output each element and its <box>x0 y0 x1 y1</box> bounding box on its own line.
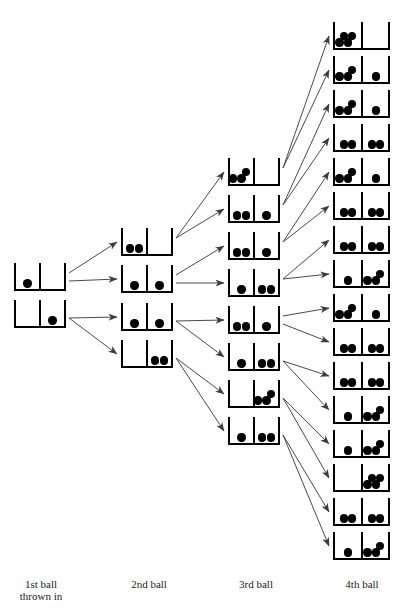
box-floor <box>228 369 280 371</box>
box-wall-left <box>121 265 123 293</box>
box-divider <box>361 90 363 116</box>
ball <box>363 446 371 454</box>
ball <box>363 412 371 420</box>
box-wall-left <box>333 328 335 356</box>
box-divider <box>361 226 363 252</box>
label-2nd: 2nd ball <box>99 578 199 590</box>
box-floor <box>333 252 390 254</box>
box-wall-left <box>228 343 230 371</box>
ball <box>254 396 262 404</box>
box-floor <box>333 150 390 152</box>
ball <box>368 242 376 250</box>
box-wall-right <box>64 263 66 291</box>
box-wall-right <box>388 464 390 492</box>
box-wall-right <box>388 362 390 390</box>
ball <box>348 242 356 250</box>
branch-arrow <box>283 435 329 512</box>
branch-arrow <box>69 318 117 354</box>
box-divider <box>253 195 255 221</box>
ball <box>126 244 134 252</box>
ball <box>258 359 266 367</box>
box-floor <box>228 221 280 223</box>
ball <box>376 406 384 414</box>
branch-arrow <box>176 358 224 394</box>
ball <box>368 140 376 148</box>
box-wall-right <box>278 417 280 445</box>
box-wall-right <box>388 226 390 254</box>
box-floor <box>121 254 173 256</box>
ball-box <box>121 303 173 331</box>
box-floor <box>121 329 173 331</box>
ball <box>368 474 376 482</box>
tree-diagram: 1st ball thrown in2nd ball3rd ball4th ba… <box>0 0 398 612</box>
box-divider <box>146 265 148 291</box>
branch-arrow <box>283 308 329 316</box>
box-wall-right <box>388 260 390 288</box>
box-wall-left <box>333 396 335 424</box>
box-wall-right <box>388 328 390 356</box>
ball <box>130 281 138 289</box>
box-wall-left <box>333 464 335 492</box>
ball <box>363 548 371 556</box>
box-floor <box>333 82 390 84</box>
box-wall-left <box>121 340 123 368</box>
box-wall-right <box>388 22 390 50</box>
ball <box>372 72 380 80</box>
ball <box>348 344 356 352</box>
ball <box>335 72 343 80</box>
ball-box <box>333 22 390 50</box>
ball <box>229 174 237 182</box>
ball <box>242 322 250 330</box>
ball <box>135 244 143 252</box>
ball <box>237 433 245 441</box>
ball-box <box>228 417 280 445</box>
box-wall-left <box>228 269 230 297</box>
ball <box>376 344 384 352</box>
ball <box>340 378 348 386</box>
box-wall-right <box>278 158 280 186</box>
box-wall-right <box>278 380 280 408</box>
ball <box>372 310 380 318</box>
box-wall-left <box>333 430 335 458</box>
box-wall-right <box>171 303 173 331</box>
ball <box>348 168 356 176</box>
ball <box>363 276 371 284</box>
box-wall-left <box>333 532 335 560</box>
branch-arrow <box>176 172 224 238</box>
box-wall-right <box>388 158 390 186</box>
ball <box>340 140 348 148</box>
box-divider <box>146 340 148 366</box>
box-divider <box>361 362 363 388</box>
ball-box <box>333 294 390 322</box>
ball-box <box>228 380 280 408</box>
branch-arrow <box>283 361 329 376</box>
ball <box>335 174 343 182</box>
ball-box <box>333 464 390 492</box>
ball-box <box>228 343 280 371</box>
box-wall-right <box>388 532 390 560</box>
box-divider <box>146 228 148 254</box>
branch-arrow <box>176 209 224 238</box>
ball-box <box>333 396 390 424</box>
box-wall-right <box>388 192 390 220</box>
box-divider <box>361 328 363 354</box>
ball-box <box>14 263 66 291</box>
box-divider <box>361 124 363 150</box>
ball <box>376 270 384 278</box>
ball <box>237 359 245 367</box>
ball <box>376 378 384 386</box>
box-floor <box>333 558 390 560</box>
branch-arrow <box>176 321 224 357</box>
box-wall-right <box>278 195 280 223</box>
ball <box>376 208 384 216</box>
box-divider <box>253 158 255 184</box>
box-wall-left <box>333 56 335 84</box>
ball <box>344 446 352 454</box>
branch-arrow <box>283 104 329 205</box>
box-wall-right <box>278 306 280 334</box>
box-wall-right <box>278 232 280 260</box>
ball <box>267 285 275 293</box>
box-wall-left <box>228 380 230 408</box>
box-divider <box>253 306 255 332</box>
branch-arrow <box>283 206 329 242</box>
